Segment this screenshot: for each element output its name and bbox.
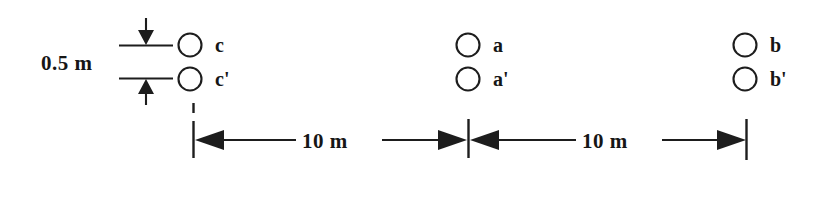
conductor-group-c: c c' [179, 34, 230, 91]
conductor-c-prime [179, 68, 202, 91]
dim1-arrowhead-left [195, 130, 224, 150]
conductor-c [179, 34, 202, 57]
vertical-dimension-label: 0.5 m [41, 51, 93, 75]
vertical-dimension-group: 0.5 m [41, 18, 173, 105]
dim2-arrowhead-right [717, 130, 746, 150]
conductor-label-b: b [770, 34, 781, 56]
dim1-arrowhead-right [438, 130, 467, 150]
vertical-dim-arrowhead-up [138, 79, 154, 94]
conductor-a-prime [457, 68, 480, 91]
horizontal-dimension-1: 10 m [195, 129, 467, 153]
conductor-b [734, 34, 757, 57]
conductor-spacing-diagram: 0.5 m c c' a a' b b' [0, 0, 834, 209]
vertical-dim-arrowhead-down [138, 30, 154, 45]
diagram-canvas: 0.5 m c c' a a' b b' [0, 0, 834, 209]
conductor-label-b-prime: b' [770, 68, 787, 90]
conductor-label-a-prime: a' [493, 68, 509, 90]
conductor-group-a: a a' [457, 34, 509, 91]
horizontal-dimension-label-1: 10 m [302, 129, 348, 153]
conductor-label-a: a [493, 34, 503, 56]
conductor-label-c: c [215, 34, 224, 56]
conductor-group-b: b b' [734, 34, 787, 91]
horizontal-dimension-2: 10 m [470, 129, 746, 153]
dim2-arrowhead-left [470, 130, 499, 150]
conductor-b-prime [734, 68, 757, 91]
conductor-label-c-prime: c' [215, 68, 229, 90]
horizontal-dimension-label-2: 10 m [582, 129, 628, 153]
conductor-a [457, 34, 480, 57]
